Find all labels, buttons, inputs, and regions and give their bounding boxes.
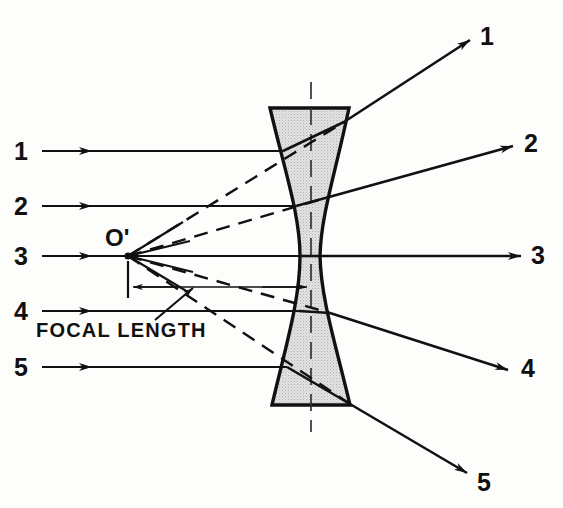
outgoing-ray-1: [344, 40, 470, 122]
focal-point-label: O': [105, 224, 129, 251]
outgoing-ray-4: [330, 313, 508, 370]
incoming-ray-label-5: 5: [14, 353, 28, 381]
outgoing-ray-label-3: 3: [531, 241, 545, 269]
focal-length-leader-line: [155, 288, 193, 320]
outgoing-ray-label-5: 5: [477, 468, 491, 496]
incoming-ray-label-4: 4: [14, 297, 28, 325]
outgoing-ray-label-2: 2: [524, 129, 538, 157]
lens-ray-diagram: O' FOCAL LENGTH 1 2 3 4 5 1 2 3 4 5: [0, 0, 563, 508]
focal-length-label: FOCAL LENGTH: [36, 319, 207, 341]
outgoing-rays: [320, 40, 521, 473]
outgoing-ray-label-4: 4: [521, 354, 535, 382]
focal-point-marker: [124, 252, 131, 259]
incoming-ray-label-3: 3: [14, 242, 28, 270]
outgoing-ray-2: [329, 146, 513, 197]
incoming-ray-label-1: 1: [14, 137, 28, 165]
outgoing-ray-5: [350, 404, 467, 473]
incoming-ray-label-2: 2: [14, 192, 28, 220]
outgoing-ray-label-1: 1: [480, 22, 494, 50]
